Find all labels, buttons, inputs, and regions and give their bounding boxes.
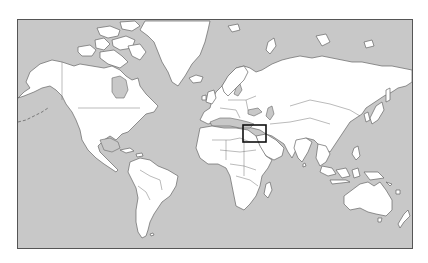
world-map-svg [17,19,413,249]
falkland-islands [150,233,154,236]
sakhalin [386,88,390,102]
world-map [17,19,413,249]
sri-lanka [303,163,306,167]
tasmania [378,218,382,222]
fiji [396,190,400,194]
ireland [202,95,206,100]
